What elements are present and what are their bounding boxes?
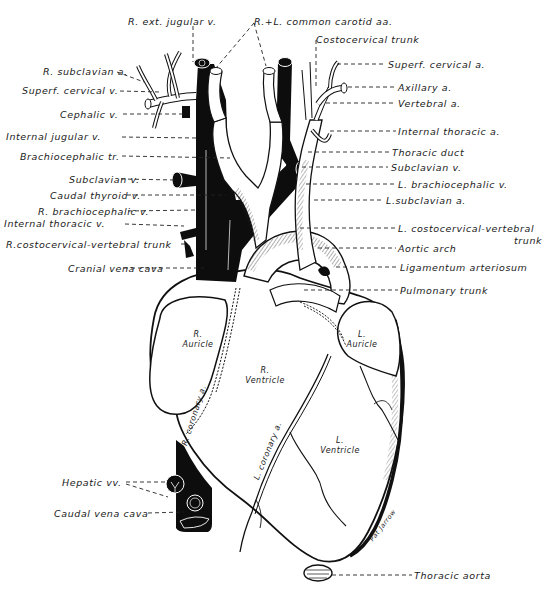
label-l-costocervical-vertebral: L. costocervical-vertebral <box>398 223 534 234</box>
label-cranial-vena-cava: Cranial vena cava <box>68 263 164 274</box>
label-costocervical-trunk: Costocervical trunk <box>316 34 419 45</box>
label-r-auricle: R. Auricle <box>178 330 218 350</box>
label-internal-thoracic-v: Internal thoracic v. <box>4 218 105 229</box>
label-r-costocervical-vertebral-trunk: R.costocervical-vertebral trunk <box>6 239 172 250</box>
label-r-brachiocephalic-v: R. brachiocephalic v. <box>38 206 149 217</box>
heart-diagram: R. ext. jugular v. R.+L. common carotid … <box>0 0 550 591</box>
label-internal-thoracic-a: Internal thoracic a. <box>398 126 500 137</box>
label-r-ventricle: R. Ventricle <box>240 366 290 386</box>
label-l-costocervical-trunk: trunk <box>514 235 542 246</box>
label-thoracic-duct: Thoracic duct <box>392 147 464 158</box>
label-caudal-thyroid-v: Caudal thyroid v. <box>50 190 141 201</box>
label-hepatic-vv: Hepatic vv. <box>62 477 122 488</box>
label-cephalic-v: Cephalic v. <box>60 109 118 120</box>
label-r-subclavian-a: R. subclavian a. <box>43 66 128 77</box>
label-caudal-vena-cava: Caudal vena cava <box>54 508 148 519</box>
label-r-ext-jugular-v: R. ext. jugular v. <box>128 16 217 27</box>
thoracic-aorta-shape <box>304 565 332 581</box>
label-superf-cervical-v: Superf. cervical v. <box>22 85 118 96</box>
label-l-brachiocephalic-v: L. brachiocephalic v. <box>398 179 508 190</box>
label-r-l-common-carotid-aa: R.+L. common carotid aa. <box>254 16 393 27</box>
label-internal-jugular-v: Internal jugular v. <box>6 131 101 142</box>
label-pulmonary-trunk: Pulmonary trunk <box>400 285 488 296</box>
label-l-auricle: L. Auricle <box>340 330 384 350</box>
label-subclavian-v-right: Subclavian v. <box>391 162 462 173</box>
label-l-subclavian-a: L.subclavian a. <box>386 195 466 206</box>
label-superf-cervical-a: Superf. cervical a. <box>388 59 485 70</box>
label-ligamentum-arteriosum: Ligamentum arteriosum <box>400 262 527 273</box>
label-vertebral-a: Vertebral a. <box>398 98 461 109</box>
label-l-ventricle: L. Ventricle <box>312 436 368 456</box>
label-axillary-a: Axillary a. <box>398 82 452 93</box>
label-aortic-arch: Aortic arch <box>398 243 456 254</box>
label-brachiocephalic-tr: Brachiocephalic tr. <box>20 151 120 162</box>
label-subclavian-v-left: Subclavian v. <box>69 174 140 185</box>
label-thoracic-aorta: Thoracic aorta <box>414 570 491 581</box>
